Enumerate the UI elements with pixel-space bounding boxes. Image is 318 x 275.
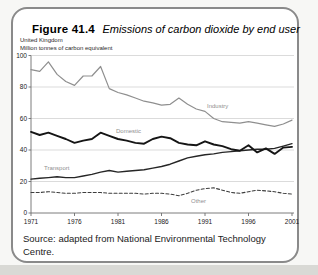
figure-description: Emissions of carbon dioxide by end user — [102, 23, 300, 35]
figure-card: Figure 41.4 Emissions of carbon dioxide … — [11, 7, 299, 263]
region-label: United Kingdom — [20, 37, 63, 44]
page-bottom-band — [0, 265, 318, 275]
units-label: Million tonnes of carbon equivalent — [20, 45, 112, 52]
page-background: Figure 41.4 Emissions of carbon dioxide … — [0, 0, 318, 275]
figure-number: Figure 41.4 — [32, 23, 95, 35]
source-note: Source: adapted from National Environmen… — [23, 233, 275, 258]
figure-title: Figure 41.4 Emissions of carbon dioxide … — [32, 19, 294, 37]
